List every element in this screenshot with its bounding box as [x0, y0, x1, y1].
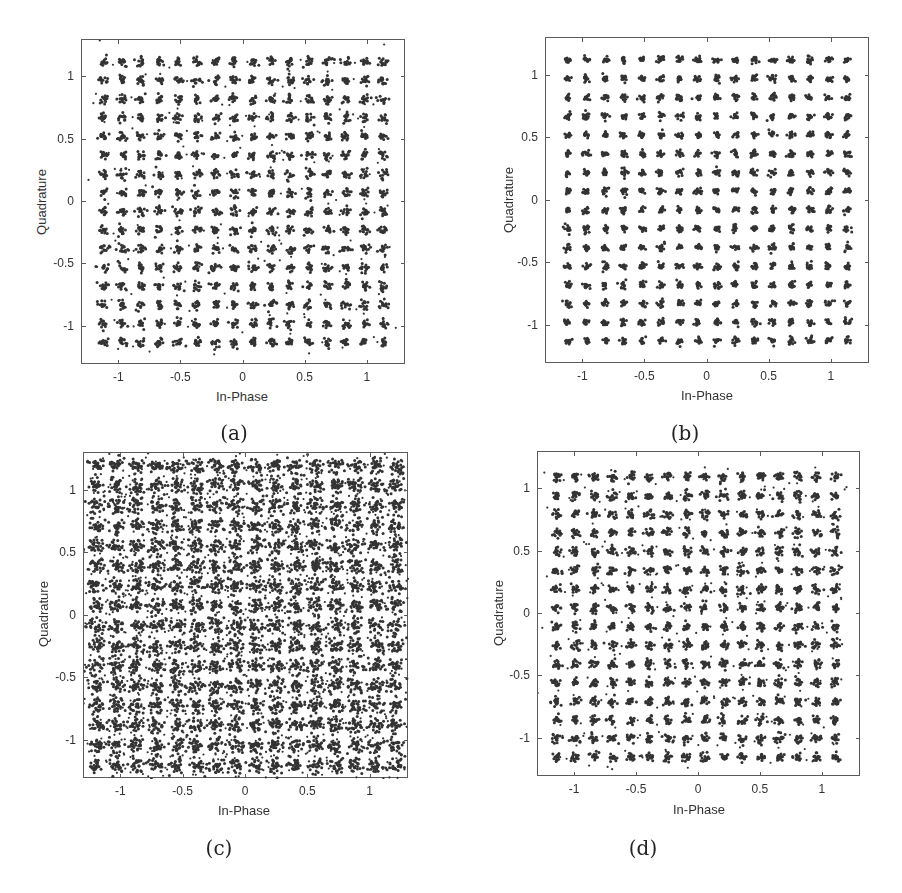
y-tick-label: 1	[523, 481, 530, 495]
axes-box-d	[537, 451, 860, 776]
x-axis-label: In-Phase	[673, 802, 725, 817]
y-tick-mark	[856, 488, 860, 489]
y-tick-label: 0.5	[513, 544, 530, 558]
y-tick-label: -1	[519, 731, 530, 745]
x-tick-mark	[574, 772, 575, 776]
panel-d: -1-0.500.51-1-0.500.51 In-Phase Quadratu…	[0, 0, 902, 893]
x-tick-mark	[760, 772, 761, 776]
x-tick-mark	[636, 452, 637, 456]
y-tick-mark	[538, 738, 542, 739]
y-tick-mark	[538, 613, 542, 614]
x-tick-label: -1	[569, 782, 580, 796]
x-tick-mark	[698, 452, 699, 456]
y-tick-mark	[538, 488, 542, 489]
x-tick-label: -0.5	[626, 782, 647, 796]
y-tick-label: 0	[523, 606, 530, 620]
x-tick-label: 0.5	[752, 782, 769, 796]
y-tick-mark	[538, 551, 542, 552]
y-tick-mark	[856, 675, 860, 676]
x-tick-label: 0	[695, 782, 702, 796]
x-tick-mark	[822, 452, 823, 456]
x-tick-mark	[636, 772, 637, 776]
y-tick-mark	[538, 675, 542, 676]
y-tick-mark	[856, 613, 860, 614]
caption-d: (d)	[629, 836, 657, 860]
scatter-plot-d	[538, 452, 861, 777]
x-tick-mark	[760, 452, 761, 456]
x-tick-label: 1	[819, 782, 826, 796]
y-tick-mark	[856, 551, 860, 552]
x-tick-mark	[698, 772, 699, 776]
y-tick-mark	[856, 738, 860, 739]
x-tick-mark	[574, 452, 575, 456]
y-axis-label: Quadrature	[491, 580, 506, 646]
x-tick-mark	[822, 772, 823, 776]
y-tick-label: -0.5	[509, 668, 530, 682]
